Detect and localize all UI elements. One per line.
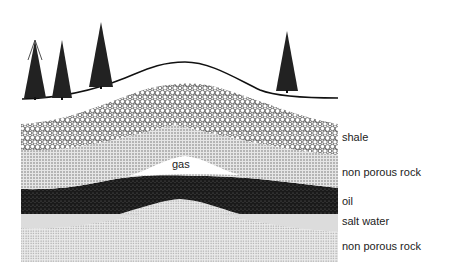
oil-label: oil [342, 195, 353, 207]
tree-icon [24, 40, 46, 100]
tree-icon [52, 40, 72, 100]
non-porous-rock-lower-label: non porous rock [342, 240, 421, 252]
tree-icon [89, 22, 113, 89]
non-porous-rock-upper-label: non porous rock [342, 166, 421, 178]
shale-label: shale [342, 131, 368, 143]
gas-label: gas [172, 158, 190, 170]
tree-icon [276, 31, 298, 93]
geology-diagram [0, 0, 449, 272]
salt-water-label: salt water [342, 215, 389, 227]
